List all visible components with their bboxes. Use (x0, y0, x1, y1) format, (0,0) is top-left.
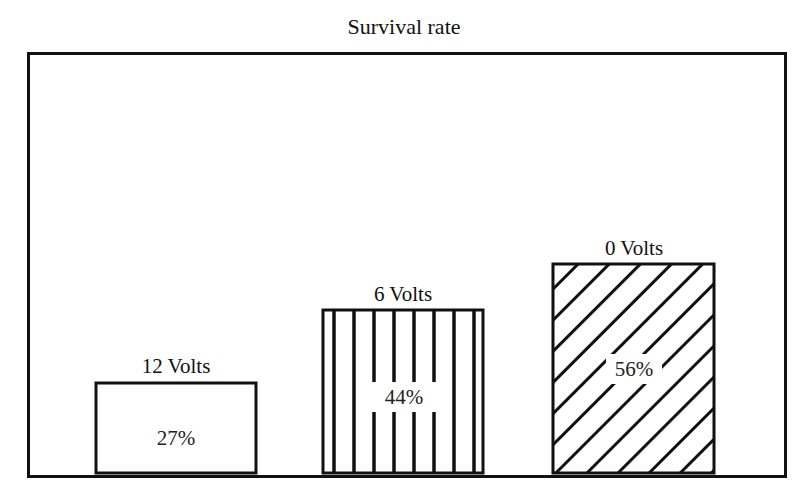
chart-plot: 12 Volts 27% 44% 6 Volts 56% 0 Volts (0, 0, 808, 496)
bar-label: 12 Volts (142, 354, 211, 378)
bar-0-volts: 56% 0 Volts (553, 236, 714, 473)
bar-value: 27% (157, 426, 196, 450)
bar-value: 44% (385, 385, 424, 409)
bar-12-volts: 12 Volts 27% (96, 354, 256, 473)
bar-label: 0 Volts (605, 236, 663, 260)
bar-label: 6 Volts (374, 282, 432, 306)
bar-6-volts: 44% 6 Volts (323, 282, 483, 473)
bar-value: 56% (615, 357, 654, 381)
